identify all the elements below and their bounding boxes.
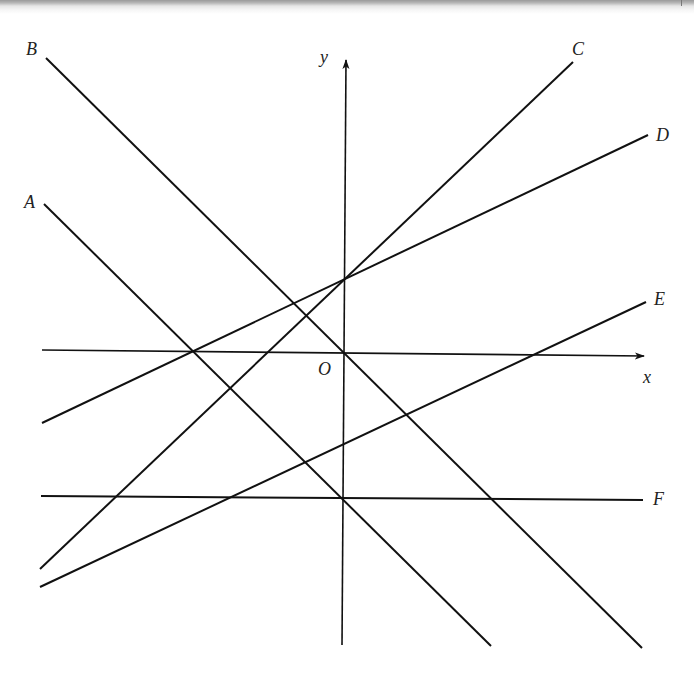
line-c xyxy=(40,62,573,569)
line-c-label: C xyxy=(572,40,584,58)
line-f-label: F xyxy=(653,490,664,508)
coordinate-diagram xyxy=(0,0,694,679)
line-b xyxy=(46,58,642,648)
line-a xyxy=(44,204,491,646)
line-a-label: A xyxy=(24,193,35,211)
line-b-label: B xyxy=(26,40,37,58)
line-e-label: E xyxy=(654,290,665,308)
line-d-label: D xyxy=(656,126,669,144)
x-axis-label: x xyxy=(643,368,651,386)
y-axis-label: y xyxy=(320,48,328,66)
origin-label: O xyxy=(318,360,331,378)
